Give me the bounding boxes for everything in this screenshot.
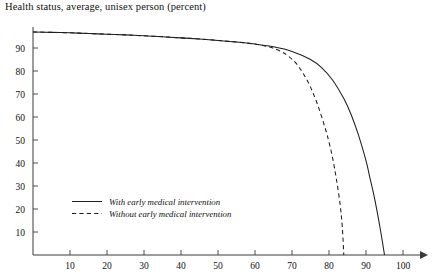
axis-lines [33, 27, 420, 255]
x-tick-label: 50 [213, 261, 223, 271]
x-tick-label: 80 [324, 261, 334, 271]
y-tick-label: 80 [16, 67, 26, 77]
x-tick-label: 10 [65, 261, 75, 271]
series-line-with-early-medical-intervention [33, 32, 385, 255]
x-tick-label: 60 [250, 261, 260, 271]
legend-label-without: Without early medical intervention [109, 209, 232, 219]
chart-container: Health status, average, unisex person (p… [0, 0, 433, 280]
x-tick-label: 30 [139, 261, 149, 271]
x-tick-label: 100 [396, 261, 411, 271]
x-axis-ticks: 102030405060708090100 [65, 250, 410, 271]
y-tick-label: 10 [16, 228, 26, 238]
y-axis-ticks: 102030405060708090 [16, 44, 39, 238]
x-tick-label: 40 [176, 261, 186, 271]
legend-label-with: With early medical intervention [109, 197, 221, 207]
y-tick-label: 50 [16, 136, 26, 146]
axes [33, 27, 428, 259]
y-tick-label: 40 [16, 159, 26, 169]
chart-legend: With early medical intervention Without … [72, 197, 232, 219]
y-tick-label: 90 [16, 44, 26, 54]
series-line-without-early-medical-intervention [33, 32, 344, 255]
chart-plot-area: 102030405060708090 102030405060708090100… [0, 0, 433, 280]
y-tick-label: 70 [16, 90, 26, 100]
y-tick-label: 30 [16, 182, 26, 192]
y-tick-label: 20 [16, 205, 26, 215]
x-tick-label: 90 [361, 261, 371, 271]
y-tick-label: 60 [16, 113, 26, 123]
x-tick-label: 70 [287, 261, 297, 271]
x-axis-arrow-icon [420, 251, 428, 259]
x-tick-label: 20 [102, 261, 112, 271]
